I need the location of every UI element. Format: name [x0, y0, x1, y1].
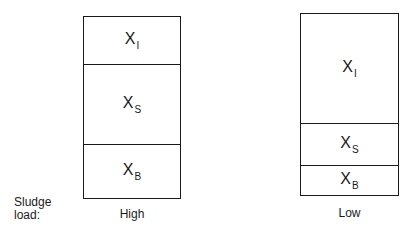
segment-xb-high: XB — [84, 144, 180, 198]
label-xb: XB — [340, 170, 358, 191]
caption-low: Low — [300, 206, 399, 220]
label-xs: XS — [123, 94, 141, 115]
segment-xi-high: XI — [84, 17, 180, 64]
segment-xs-low: XS — [301, 123, 398, 165]
segment-xi-low: XI — [301, 14, 398, 123]
label-xi: XI — [342, 58, 356, 79]
segment-xb-low: XB — [301, 165, 398, 195]
label-xb: XB — [123, 161, 141, 182]
label-xs: XS — [340, 134, 358, 155]
sludge-load-label: Sludge load: — [14, 196, 51, 222]
label-xi: XI — [125, 30, 139, 51]
segment-xs-high: XS — [84, 64, 180, 144]
column-high: XI XS XB — [83, 16, 181, 199]
column-low: XI XS XB — [300, 13, 399, 196]
sludge-load-line2: load: — [14, 209, 51, 222]
caption-high: High — [83, 207, 181, 221]
